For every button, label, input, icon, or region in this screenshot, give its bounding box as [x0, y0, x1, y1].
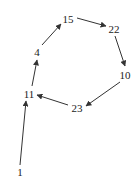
- edge-15-to-22-arrow-icon: [77, 18, 106, 26]
- node-4: 4: [34, 47, 40, 58]
- node-11: 11: [24, 89, 35, 100]
- edge-1-to-11-arrow-icon: [20, 101, 26, 165]
- node-23: 23: [72, 103, 83, 114]
- edge-23-to-11-arrow-icon: [37, 95, 68, 105]
- node-10: 10: [120, 70, 131, 81]
- edge-22-to-10-arrow-icon: [115, 36, 125, 66]
- edges-group: [20, 18, 125, 165]
- node-15: 15: [63, 14, 74, 25]
- node-1: 1: [17, 167, 23, 178]
- edge-4-to-15-arrow-icon: [42, 24, 61, 45]
- node-22: 22: [109, 24, 120, 35]
- edge-10-to-23-arrow-icon: [86, 82, 120, 106]
- edge-11-to-4-arrow-icon: [32, 60, 37, 86]
